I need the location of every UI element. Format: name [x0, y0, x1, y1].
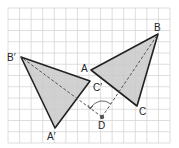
label-d: D: [98, 120, 105, 131]
label-b: B: [154, 22, 161, 33]
label-b-prime: B′: [7, 52, 16, 63]
center-point-d: [100, 115, 104, 119]
label-c-prime: C′: [93, 82, 102, 93]
label-a-prime: A′: [47, 131, 56, 142]
label-a: A: [81, 63, 88, 74]
label-c: C: [139, 106, 146, 117]
rotation-diagram: A B C A′ B′ C′ D: [0, 0, 179, 148]
triangle-abc: [91, 34, 158, 106]
